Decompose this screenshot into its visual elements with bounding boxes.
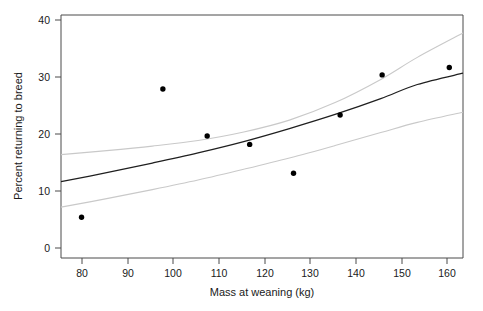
data-point-2	[204, 133, 209, 138]
data-point-1	[160, 86, 165, 91]
series-layer	[61, 33, 463, 207]
data-point-6	[379, 72, 384, 77]
data-point-3	[247, 142, 252, 147]
x-axis: 80 90 100 110 120 130 140 150 160 Mass a…	[61, 258, 463, 298]
x-axis-title: Mass at weaning (kg)	[210, 286, 315, 298]
x-tick-label-150: 150	[393, 267, 411, 279]
y-axis-title: Percent returning to breed	[12, 72, 24, 200]
x-tick-label-140: 140	[347, 267, 365, 279]
data-point-4	[291, 171, 296, 176]
data-point-7	[447, 65, 452, 70]
data-point-5	[337, 112, 342, 117]
y-tick-label-0: 0	[44, 242, 50, 254]
x-tick-label-130: 130	[301, 267, 319, 279]
x-tick-label-160: 160	[438, 267, 456, 279]
x-tick-label-110: 110	[211, 267, 228, 279]
data-point-0	[79, 215, 84, 220]
data-points-layer	[79, 65, 452, 220]
chart-figure: 40 30 20 10 0 Percent returning to breed…	[0, 0, 483, 311]
x-tick-label-80: 80	[76, 267, 88, 279]
lower-confidence-band-path	[61, 112, 463, 207]
x-tick-label-100: 100	[164, 267, 182, 279]
y-tick-label-30: 30	[38, 71, 50, 83]
y-tick-label-20: 20	[38, 128, 50, 140]
x-tick-label-120: 120	[256, 267, 274, 279]
y-axis: 40 30 20 10 0 Percent returning to breed	[12, 14, 61, 258]
y-tick-label-10: 10	[38, 185, 50, 197]
x-tick-label-90: 90	[122, 267, 134, 279]
scatter-plot-svg: 40 30 20 10 0 Percent returning to breed…	[0, 0, 483, 311]
y-tick-label-40: 40	[38, 14, 50, 26]
